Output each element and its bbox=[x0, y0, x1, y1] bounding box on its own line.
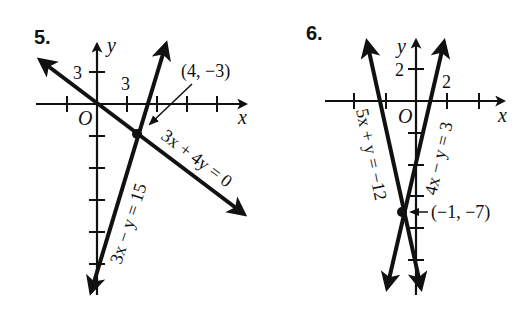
intersection-point bbox=[397, 207, 407, 217]
y-axis-label: y bbox=[395, 35, 406, 58]
intersection-point bbox=[132, 129, 142, 139]
problem-number: 5. bbox=[34, 26, 51, 48]
x-tick-label: 3 bbox=[121, 74, 130, 94]
intersection-label: (−1, −7) bbox=[431, 202, 490, 223]
x-tick-label: 2 bbox=[442, 72, 451, 92]
x-axis-label: x bbox=[237, 106, 247, 128]
x-axis-label: x bbox=[497, 104, 507, 126]
figure-canvas: 5. 3 3 y x O bbox=[0, 0, 526, 318]
origin-label: O bbox=[398, 105, 412, 127]
y-tick-label: 2 bbox=[395, 60, 404, 80]
equation-label: 4x − y = 3 bbox=[420, 120, 456, 197]
y-tick-label: 3 bbox=[73, 63, 82, 83]
y-axis-label: y bbox=[105, 34, 116, 57]
graph-5: 5. 3 3 y x O bbox=[34, 26, 247, 295]
graph-6: 6. 2 2 y x O (−1 bbox=[306, 22, 507, 295]
problem-number: 6. bbox=[306, 22, 323, 44]
origin-label: O bbox=[78, 107, 92, 129]
intersection-label: (4, −3) bbox=[181, 61, 230, 82]
